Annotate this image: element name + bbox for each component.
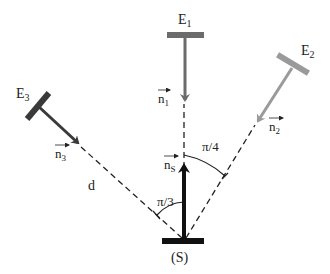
- diagram-svg: E1 E2 E3 n1 n2 n3 nS π/3 π/4 d: [0, 0, 330, 274]
- distance-label-d: d: [88, 178, 95, 193]
- source-label: (S): [171, 250, 188, 266]
- svg-text:nS: nS: [164, 157, 176, 174]
- mirror-e3-arrow: [38, 106, 78, 143]
- vector-label-n3: n3: [55, 145, 69, 163]
- mirror-e1: [167, 32, 204, 38]
- label-e2: E2: [301, 43, 315, 60]
- vector-label-ns: nS: [164, 156, 178, 174]
- angle-label-pi-over-3: π/3: [157, 194, 174, 209]
- angle-arc-pi-over-4: [184, 155, 225, 176]
- label-e3: E3: [16, 86, 30, 103]
- vector-label-n2: n2: [269, 118, 283, 136]
- svg-text:n3: n3: [55, 146, 67, 163]
- vector-label-n1: n1: [158, 90, 170, 108]
- label-e1: E1: [178, 12, 192, 29]
- svg-text:n2: n2: [269, 119, 280, 136]
- svg-text:n1: n1: [158, 91, 169, 108]
- mirror-e2-arrow: [258, 68, 292, 121]
- dashed-line-s-to-e2: [186, 125, 255, 238]
- angle-label-pi-over-4: π/4: [202, 139, 219, 154]
- diagram-canvas: E1 E2 E3 n1 n2 n3 nS π/3 π/4 d: [0, 0, 330, 274]
- source-plate: [162, 238, 204, 244]
